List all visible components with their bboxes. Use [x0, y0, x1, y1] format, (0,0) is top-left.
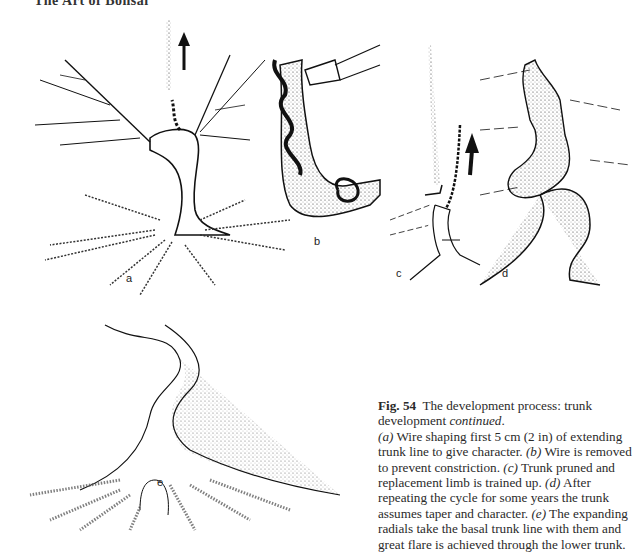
figure-panel-a: a: [0, 20, 300, 310]
panel-label-b: b: [314, 235, 320, 247]
basal-flare-illustration-e: [20, 320, 350, 520]
caption-title-emphasis: continued: [449, 413, 501, 428]
caption-title-end: .: [501, 413, 504, 428]
running-head: The Art of Bonsai: [34, 0, 149, 9]
tapered-trunk-illustration-d: [480, 55, 638, 290]
panel-label-c: c: [396, 267, 402, 279]
wire-trunk-illustration-b: [260, 55, 380, 245]
caption-part-d-label: (d): [545, 475, 560, 490]
caption-part-b-label: (b): [526, 444, 541, 459]
caption-part-c-label: (c): [503, 460, 518, 475]
panel-label-a: a: [126, 272, 132, 284]
figure-panel-e: e: [20, 320, 350, 520]
caption-part-e-label: (e): [531, 506, 546, 521]
extension-line: [166, 20, 171, 90]
figure-panel-c: c: [390, 45, 490, 285]
pruned-trunk-illustration-c: [390, 45, 490, 285]
panel-label-e: e: [157, 476, 163, 488]
figure-panel-d: d: [480, 55, 638, 290]
up-arrow-icon: [465, 133, 479, 153]
tree-illustration-a: [0, 20, 300, 310]
figure-caption: Fig. 54 The development process: trunk d…: [378, 398, 638, 552]
panel-label-d: d: [502, 267, 508, 279]
figure-panel-b: b: [260, 55, 380, 245]
up-arrow-icon: [178, 32, 190, 46]
extension-line: [428, 45, 440, 185]
figure-number: Fig. 54: [378, 398, 416, 413]
caption-part-a-label: (a): [378, 429, 393, 444]
